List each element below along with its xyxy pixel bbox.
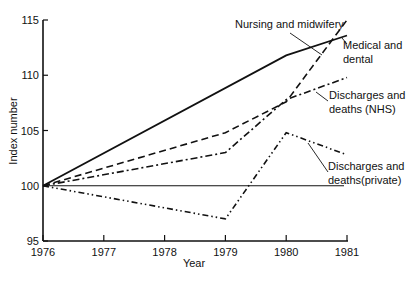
series-line-3: [43, 133, 347, 219]
x-tick-label: 1980: [274, 246, 298, 258]
annotation-nhs: Discharges and deaths (NHS): [329, 89, 409, 115]
x-tick-label: 1981: [335, 246, 359, 258]
line-chart: 95100105110115 197619771978197919801981 …: [0, 0, 410, 284]
x-tick-label: 1978: [152, 246, 176, 258]
axes: [43, 20, 348, 241]
y-tick-label: 115: [21, 14, 39, 26]
x-axis-title: Year: [183, 257, 206, 269]
leader-private: [308, 143, 328, 172]
annotation-nursing: Nursing and midwifery: [235, 18, 344, 30]
annotation-medical: Medical and dental: [343, 39, 405, 65]
y-tick-label: 105: [21, 125, 39, 137]
annotation-private: Discharges and deaths(private): [328, 160, 408, 186]
y-tick-label: 100: [21, 180, 39, 192]
x-ticks: 197619771978197919801981: [31, 235, 359, 258]
x-tick-label: 1979: [213, 246, 237, 258]
series-line-0: [43, 36, 347, 186]
leader-nhs: [316, 92, 328, 101]
series-line-2: [43, 78, 347, 186]
series-lines: [43, 20, 347, 219]
y-ticks: 95100105110115: [21, 14, 48, 247]
y-axis-title: Index number: [7, 97, 19, 165]
y-tick-label: 110: [21, 69, 39, 81]
x-tick-label: 1976: [31, 246, 55, 258]
x-tick-label: 1977: [92, 246, 116, 258]
